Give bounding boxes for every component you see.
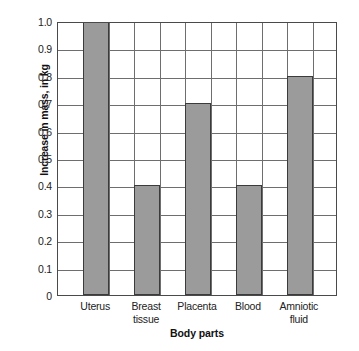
gridline-vertical <box>262 23 263 295</box>
bar-chart-figure: Increase in mass, in kg 00.10.20.30.40.5… <box>0 0 359 351</box>
y-axis-tick-labels: 00.10.20.30.40.50.60.70.80.91.0 <box>18 22 52 296</box>
y-tick-label: 0.3 <box>18 209 52 219</box>
x-axis-title: Body parts <box>57 327 337 339</box>
y-tick-label: 0.1 <box>18 264 52 274</box>
y-tick-label: 0.7 <box>18 99 52 109</box>
y-tick-label: 0.5 <box>18 154 52 164</box>
plot-area <box>57 22 337 296</box>
y-tick-label: 0.9 <box>18 44 52 54</box>
y-tick-label: 0.6 <box>18 127 52 137</box>
gridline-vertical <box>211 23 212 295</box>
x-tick-label-line: fluid <box>259 313 339 326</box>
gridline-vertical <box>160 23 161 295</box>
bar-blood <box>236 185 261 295</box>
y-tick-label: 1.0 <box>18 17 52 27</box>
y-tick-label: 0.8 <box>18 72 52 82</box>
x-tick-label: Amnioticfluid <box>259 300 339 325</box>
bar-amniotic-fluid <box>287 76 312 295</box>
bar-placenta <box>185 103 210 295</box>
y-tick-label: 0.2 <box>18 236 52 246</box>
x-tick-label-line: Amniotic <box>259 300 339 313</box>
x-tick-label-line: tissue <box>106 313 186 326</box>
y-tick-label: 0.4 <box>18 181 52 191</box>
gridline-vertical <box>313 23 314 295</box>
gridline-vertical <box>109 23 110 295</box>
bar-uterus <box>83 22 108 295</box>
y-tick-label: 0 <box>18 291 52 301</box>
bar-breast-tissue <box>134 185 159 295</box>
